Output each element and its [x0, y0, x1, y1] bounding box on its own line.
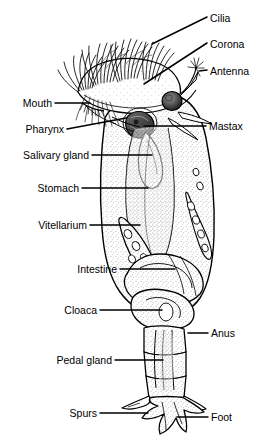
- label-mastax: Mastax: [209, 121, 243, 132]
- label-anus: Anus: [211, 328, 235, 339]
- leader-antenna: [199, 70, 207, 71]
- figure-canvas: Cilia Corona Antenna Mouth Pharynx Masta…: [0, 0, 277, 440]
- label-vitellarium: Vitellarium: [0, 220, 87, 231]
- label-pedal-gland: Pedal gland: [0, 355, 112, 366]
- label-salivary-gland: Salivary gland: [0, 150, 89, 161]
- foot-segments: [144, 326, 186, 401]
- label-cilia: Cilia: [210, 13, 230, 24]
- label-foot: Foot: [211, 412, 232, 423]
- label-corona: Corona: [210, 39, 244, 50]
- label-spurs: Spurs: [0, 408, 97, 419]
- label-intestine: Intestine: [0, 264, 117, 275]
- label-antenna: Antenna: [210, 66, 249, 77]
- label-cloaca: Cloaca: [0, 305, 97, 316]
- label-mouth: Mouth: [0, 98, 52, 109]
- label-pharynx: Pharynx: [0, 124, 64, 135]
- label-stomach: Stomach: [0, 183, 79, 194]
- leader-cilia: [152, 17, 207, 44]
